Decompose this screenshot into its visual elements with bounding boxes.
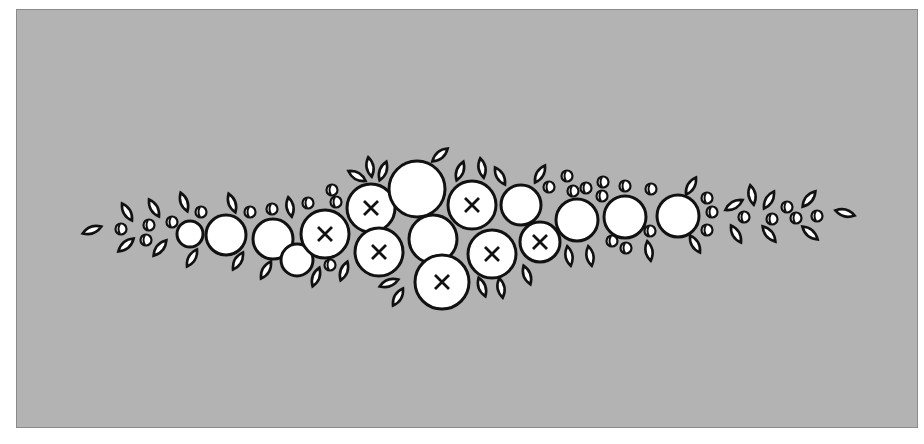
leaf-shape [365, 157, 375, 178]
marked-circle [468, 230, 516, 278]
leaf-shape [724, 197, 745, 213]
leaf-shape [800, 189, 818, 209]
leaf-shape [747, 185, 757, 206]
leaf-shape [225, 192, 238, 213]
bubble-shape [598, 177, 609, 188]
marked-circle [355, 228, 403, 276]
leaf-shape [532, 164, 548, 185]
bubble-shape [620, 181, 631, 192]
bubble-shape [141, 235, 152, 246]
circle [556, 199, 598, 241]
leaf-shape [475, 276, 488, 297]
leaf-shape [564, 246, 574, 267]
leaf-shape [430, 146, 450, 164]
bubble-shape [581, 183, 592, 194]
leaf-shape [285, 197, 295, 218]
bubble-shape [739, 212, 750, 223]
circle [604, 196, 646, 238]
bubble-shape [767, 214, 778, 225]
leaf-shape [687, 234, 703, 255]
bubble-shape [645, 226, 656, 237]
leaf-shape [834, 207, 855, 219]
leaf-shape [81, 223, 102, 236]
leaf-shape [761, 190, 777, 211]
leaf-shape [378, 276, 399, 289]
marked-circle [415, 255, 469, 309]
bubble-shape [782, 202, 793, 213]
bubble-shape [621, 243, 632, 254]
leaf-shape [146, 198, 162, 219]
circle [501, 185, 541, 225]
leaf-shape [177, 191, 190, 212]
leaf-shape [119, 202, 135, 223]
bubble-shape [167, 217, 178, 228]
bubble-shape [597, 191, 608, 202]
leaf-shape [728, 224, 744, 245]
bubble-shape [245, 207, 256, 218]
bubble-shape [702, 225, 713, 236]
leaf-shape [453, 160, 466, 181]
leaf-shape [347, 168, 368, 184]
bubble-shape [812, 211, 823, 222]
circle [177, 221, 203, 247]
leaf-shape [337, 260, 350, 281]
leaf-shape [520, 264, 533, 285]
bubble-shape [544, 182, 555, 193]
leaf-shape [683, 176, 699, 197]
bubble-shape [331, 197, 342, 208]
cell-cluster-diagram [0, 0, 924, 444]
leaf-shape [760, 224, 778, 244]
bubble-shape [116, 224, 127, 235]
bubble-shape [325, 260, 336, 271]
leaf-shape [116, 236, 136, 254]
bubble-shape [327, 185, 338, 196]
leaf-shape [376, 160, 389, 181]
bubble-shape [791, 213, 802, 224]
leaf-shape [492, 166, 508, 187]
leaf-shape [184, 248, 200, 269]
leaf-shape [800, 224, 820, 242]
bubble-shape [707, 207, 718, 218]
leaf-shape [585, 246, 595, 267]
marked-circle [520, 222, 560, 262]
bubble-shape [196, 207, 207, 218]
leaf-shape [644, 241, 654, 262]
circle [206, 215, 246, 255]
circle [389, 161, 445, 217]
leaf-shape [496, 278, 506, 299]
bubble-shape [562, 171, 573, 182]
bubble-shape [303, 198, 314, 209]
bubble-shape [568, 186, 579, 197]
bubble-shape [702, 193, 713, 204]
leaf-shape [390, 287, 406, 308]
leaf-shape [151, 238, 169, 258]
leaf-shape [477, 158, 487, 179]
circle [657, 195, 699, 237]
leaf-shape [258, 260, 274, 281]
marked-circle [448, 181, 496, 229]
bubble-shape [646, 184, 657, 195]
marked-circle [301, 210, 349, 258]
bubble-shape [144, 220, 155, 231]
bubble-shape [267, 204, 278, 215]
